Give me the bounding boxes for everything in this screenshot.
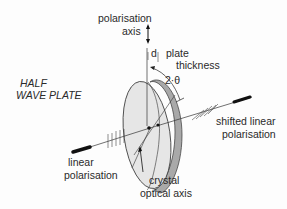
crystal-axis-label-1: crystal — [149, 174, 179, 186]
exit-dot — [156, 123, 159, 126]
title-line-1: HALF — [20, 77, 47, 89]
arrow-head-up — [146, 24, 150, 29]
linear-polarisation-label-2: polarisation — [64, 169, 118, 181]
d-label: d — [151, 47, 157, 59]
shifted-polarisation-label-2: polarisation — [222, 128, 276, 140]
polarisation-axis-label-1: polarisation — [98, 12, 152, 24]
plate-thickness-label-1: plate — [166, 47, 189, 59]
title-line-2: WAVE PLATE — [16, 89, 82, 101]
angle-label: 2·θ — [165, 74, 180, 86]
polarisation-axis-label-2: axis — [122, 25, 141, 37]
half-wave-plate-diagram: HALF WAVE PLATE polarisation axis d plat… — [0, 0, 287, 209]
output-arrow — [234, 97, 250, 102]
arrow-head-down — [146, 39, 150, 44]
input-arrow — [73, 147, 90, 152]
center-dot — [147, 126, 151, 130]
angle-arrow-head — [150, 66, 155, 70]
linear-polarisation-label-1: linear — [68, 156, 94, 168]
linear-polarisation-ticks — [108, 129, 124, 148]
shifted-polarisation-ticks — [192, 104, 218, 120]
diagram-drawing — [0, 0, 287, 209]
crystal-axis-label-2: optical axis — [140, 187, 192, 199]
shifted-polarisation-label-1: shifted linear — [216, 115, 276, 127]
plate-thickness-label-2: thickness — [176, 59, 220, 71]
angle-ref-tick — [176, 98, 184, 102]
